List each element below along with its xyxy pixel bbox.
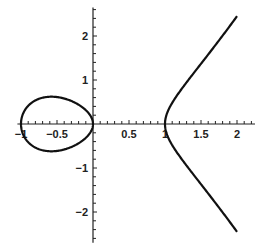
x-tick-label: 2 bbox=[234, 128, 240, 140]
x-tick-label: 0.5 bbox=[121, 128, 136, 140]
y-tick-label: −2 bbox=[75, 206, 88, 218]
y-tick-label: −1 bbox=[75, 162, 88, 174]
elliptic-curve-plot: −1−0.50.511.5221−1−2 bbox=[0, 0, 259, 244]
x-tick-label: −0.5 bbox=[46, 128, 68, 140]
y-tick-label: 2 bbox=[82, 30, 88, 42]
y-tick-label: 1 bbox=[82, 74, 88, 86]
x-tick-label: 1.5 bbox=[193, 128, 208, 140]
